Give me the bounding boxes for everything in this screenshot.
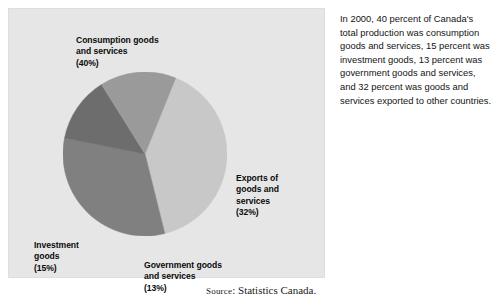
pie-label-investment-name: Investment goods (34, 240, 79, 261)
pie-label-consumption-name: Consumption goods and services (76, 35, 159, 56)
source-prefix: Source (206, 286, 232, 296)
pie-chart (63, 72, 227, 236)
figure-panel: Consumption goods and services (40%) Exp… (8, 8, 325, 278)
pie-label-investment-value: (15%) (34, 263, 79, 274)
pie-label-investment: Investment goods (15%) (34, 229, 79, 285)
caption-text: In 2000, 40 percent of Canada's total pr… (340, 12, 492, 107)
pie-label-consumption-value: (40%) (76, 58, 159, 69)
pie-chart-svg (63, 72, 227, 236)
pie-label-government: Government goods and services (13%) (144, 249, 222, 305)
source-line: Source: Statistics Canada. (206, 284, 316, 296)
pie-label-exports-name: Exports of goods and services (236, 173, 279, 205)
pie-label-consumption: Consumption goods and services (40%) (76, 24, 159, 80)
pie-label-exports: Exports of goods and services (32%) (236, 162, 279, 229)
pie-label-government-name: Government goods and services (144, 260, 222, 281)
source-text: : Statistics Canada. (232, 284, 316, 296)
pie-label-exports-value: (32%) (236, 207, 279, 218)
